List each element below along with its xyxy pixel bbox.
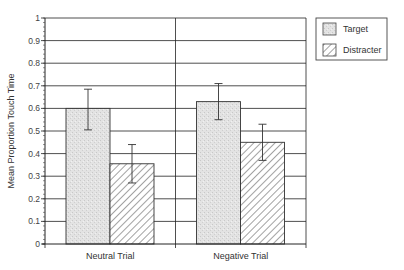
legend-label: Distracter xyxy=(343,45,382,55)
y-tick-label: 0.1 xyxy=(28,216,40,226)
legend: TargetDistracter xyxy=(316,18,387,60)
legend-swatch-target xyxy=(323,23,336,35)
y-tick-label: 0.7 xyxy=(28,81,40,91)
y-tick-label: 1 xyxy=(35,13,40,23)
bar-chart: Neutral TrialNegative Trial00.10.20.30.4… xyxy=(0,0,404,270)
y-tick-label: 0.5 xyxy=(28,126,40,136)
bar-target xyxy=(197,102,241,244)
y-tick-label: 0.9 xyxy=(28,36,40,46)
category-label: Negative Trial xyxy=(213,251,268,261)
legend-swatch-distracter xyxy=(323,44,336,56)
y-tick-label: 0.8 xyxy=(28,58,40,68)
y-tick-label: 0.2 xyxy=(28,194,40,204)
y-tick-label: 0.3 xyxy=(28,171,40,181)
legend-label: Target xyxy=(343,24,369,34)
y-tick-label: 0.6 xyxy=(28,103,40,113)
y-tick-label: 0.4 xyxy=(28,149,40,159)
y-axis-title: Mean Proportion Touch Time xyxy=(6,74,16,189)
y-tick-label: 0 xyxy=(35,239,40,249)
category-label: Neutral Trial xyxy=(86,251,135,261)
